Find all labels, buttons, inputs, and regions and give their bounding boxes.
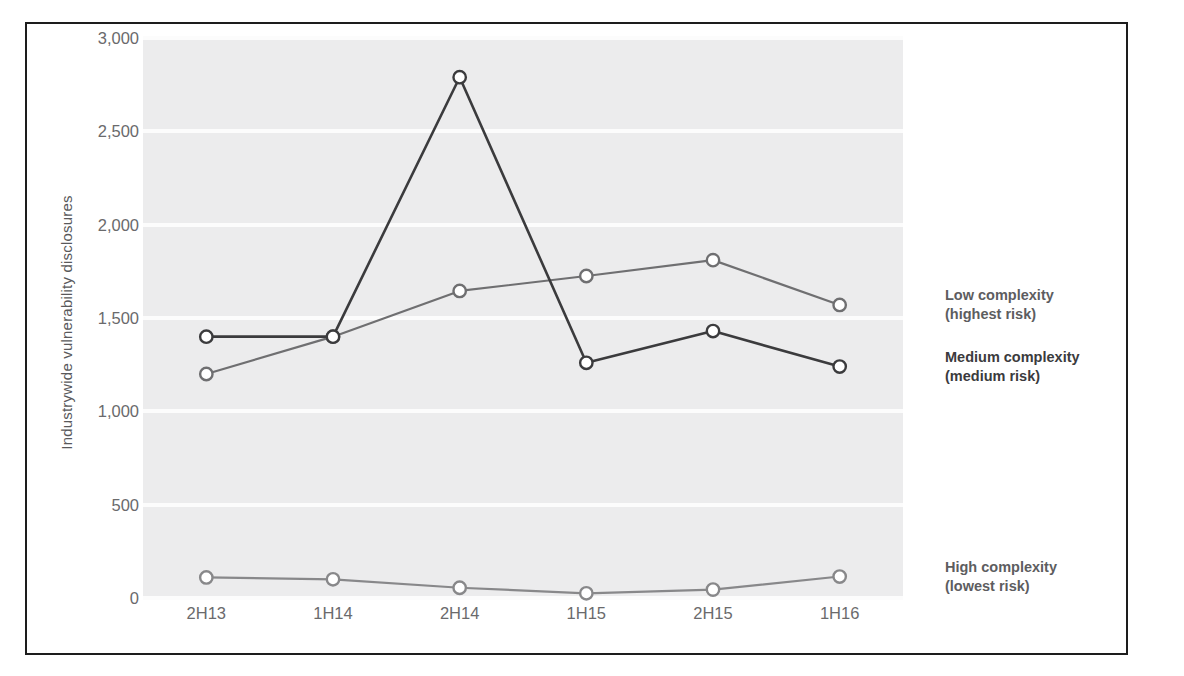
x-tick-label: 1H16 <box>780 604 900 623</box>
data-point-marker <box>200 368 212 380</box>
series-2 <box>200 71 846 373</box>
series-1 <box>200 254 846 380</box>
x-tick-label: 2H13 <box>146 604 266 623</box>
data-point-marker <box>833 299 845 311</box>
x-tick-label: 1H14 <box>273 604 393 623</box>
chart-figure: Industrywide vulnerability disclosures 0… <box>0 0 1184 676</box>
y-tick-label: 1,000 <box>59 402 139 421</box>
series-annotation-1: Low complexity(highest risk) <box>945 286 1054 324</box>
y-tick-label: 2,500 <box>59 122 139 141</box>
series-annotation-line1: Low complexity <box>945 286 1054 305</box>
data-point-marker <box>833 360 845 372</box>
data-point-marker <box>453 582 465 594</box>
data-point-marker <box>707 325 719 337</box>
data-point-marker <box>580 270 592 282</box>
y-tick-label: 500 <box>59 495 139 514</box>
series-line <box>206 77 839 366</box>
x-axis-tick-labels: 2H131H142H141H152H151H16 <box>143 604 903 634</box>
data-point-marker <box>833 570 845 582</box>
series-layer <box>143 38 903 598</box>
series-annotation-2: Medium complexity(medium risk) <box>945 348 1080 386</box>
chart-frame: Industrywide vulnerability disclosures 0… <box>25 22 1128 655</box>
data-point-marker <box>707 254 719 266</box>
data-point-marker <box>327 573 339 585</box>
series-annotation-line1: Medium complexity <box>945 348 1080 367</box>
series-annotation-3: High complexity(lowest risk) <box>945 558 1057 596</box>
data-point-marker <box>200 330 212 342</box>
y-tick-label: 3,000 <box>59 29 139 48</box>
data-point-marker <box>707 583 719 595</box>
data-point-marker <box>327 330 339 342</box>
series-line <box>206 577 839 594</box>
data-point-marker <box>453 285 465 297</box>
y-axis-tick-labels: 05001,0001,5002,0002,5003,000 <box>55 24 139 657</box>
x-tick-label: 2H15 <box>653 604 773 623</box>
data-point-marker <box>453 71 465 83</box>
y-tick-label: 2,000 <box>59 215 139 234</box>
data-point-marker <box>580 357 592 369</box>
plot-area <box>143 38 903 598</box>
series-3 <box>200 570 846 599</box>
series-annotation-line2: (highest risk) <box>945 305 1054 324</box>
y-tick-label: 1,500 <box>59 309 139 328</box>
x-tick-label: 1H15 <box>526 604 646 623</box>
data-point-marker <box>580 587 592 599</box>
series-annotation-line1: High complexity <box>945 558 1057 577</box>
y-tick-label: 0 <box>59 589 139 608</box>
series-annotation-line2: (medium risk) <box>945 367 1080 386</box>
x-tick-label: 2H14 <box>400 604 520 623</box>
series-annotation-line2: (lowest risk) <box>945 577 1057 596</box>
data-point-marker <box>200 571 212 583</box>
series-line <box>206 260 839 374</box>
